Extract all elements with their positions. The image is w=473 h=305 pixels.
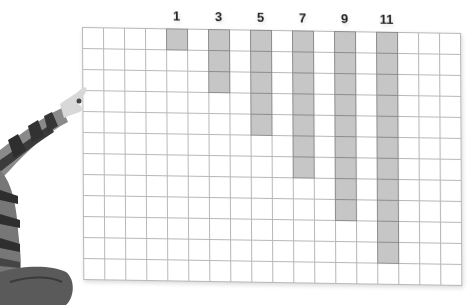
figure-scene: 1357911 [0, 0, 473, 305]
child-arm [0, 87, 87, 305]
child-pointing-illustration [0, 0, 473, 305]
